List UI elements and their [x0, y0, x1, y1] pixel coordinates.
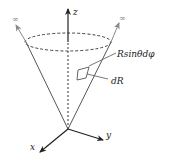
left-extension-arrow	[16, 25, 26, 42]
y-axis-label: y	[105, 130, 112, 140]
right-infinity-label: ∞	[119, 14, 126, 23]
cone-left-edge	[26, 42, 68, 129]
right-extension-arrow	[111, 23, 119, 42]
arc-leader-line	[89, 53, 116, 66]
cone-right-edge	[68, 42, 111, 129]
y-axis-arrow	[68, 129, 103, 140]
x-axis-label: x	[30, 142, 35, 152]
radial-element-label: dR	[111, 76, 124, 86]
surface-element-patch	[77, 67, 89, 80]
z-axis-label: z	[72, 7, 78, 17]
left-infinity-label: ∞	[12, 15, 19, 24]
arc-element-label: Rsinθdφ	[116, 49, 155, 59]
dr-leader-line	[87, 74, 108, 79]
x-axis-arrow	[40, 129, 68, 152]
cone-diagram: z y x ∞ ∞ Rsinθdφ dR	[0, 0, 169, 161]
